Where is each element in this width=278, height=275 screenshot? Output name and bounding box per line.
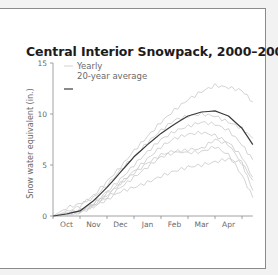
y-tick-label: 0 (42, 212, 47, 221)
legend-yearly-label: Yearly (76, 61, 102, 71)
yearly-line (53, 139, 253, 216)
x-tick-label: Apr (222, 220, 236, 229)
yearly-line (53, 158, 253, 216)
average-line (53, 111, 253, 216)
yearly-line (53, 146, 253, 216)
x-tick-label: Mar (194, 220, 209, 229)
x-tick-label: Feb (168, 220, 182, 229)
line-chart: 051015Snow water equivalent (in.)OctNovD… (0, 0, 278, 275)
y-tick-label: 10 (37, 110, 47, 119)
yearly-line (53, 84, 253, 216)
y-tick-label: 15 (37, 59, 47, 68)
x-tick-label: Nov (86, 220, 101, 229)
x-tick-label: Oct (60, 220, 73, 229)
x-tick-label: Dec (113, 220, 128, 229)
legend-average-label: 20-year average (77, 71, 147, 81)
y-axis-label: Snow water equivalent (in.) (26, 88, 35, 198)
x-tick-label: Jan (141, 220, 154, 229)
y-tick-label: 5 (42, 161, 47, 170)
